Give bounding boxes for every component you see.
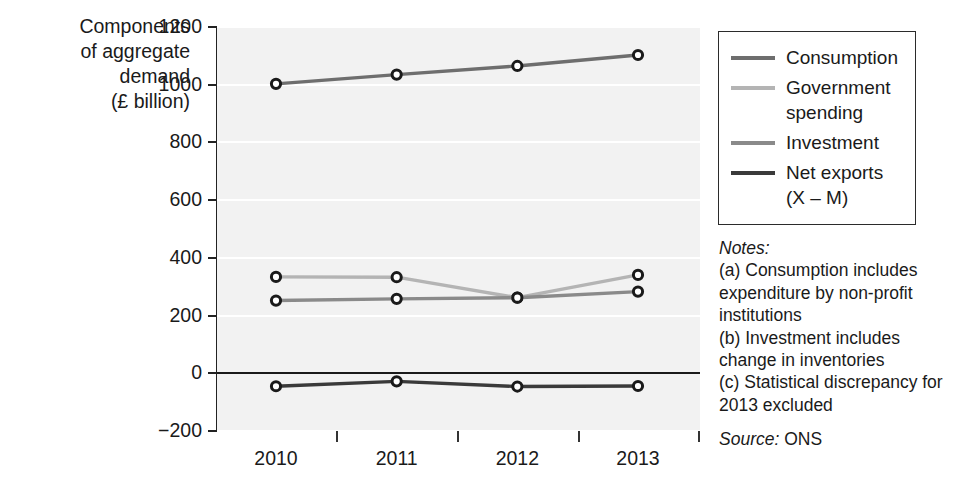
notes-block: Notes: (a) Consumption includes expendit… bbox=[719, 237, 947, 451]
y-axis-tick bbox=[208, 26, 217, 28]
y-axis-tick bbox=[208, 257, 217, 259]
legend-item-label: Net exports (X – M) bbox=[786, 160, 883, 210]
y-axis-tick bbox=[208, 372, 217, 374]
legend-item[interactable]: Net exports (X – M) bbox=[719, 160, 915, 210]
legend-color-swatch bbox=[731, 171, 775, 175]
y-axis-tick bbox=[208, 141, 217, 143]
x-axis-tick bbox=[578, 431, 580, 442]
y-axis-tick-label: 200 bbox=[169, 306, 202, 326]
series-net bbox=[271, 377, 642, 391]
data-point bbox=[513, 293, 522, 302]
data-point bbox=[633, 381, 642, 390]
legend-color-swatch bbox=[731, 141, 775, 145]
plot-area: 120010008006004002000−200 20102011201220… bbox=[217, 27, 700, 431]
x-axis-tick bbox=[698, 431, 700, 442]
x-axis-tick-label: 2011 bbox=[376, 449, 418, 469]
legend-item[interactable]: Consumption bbox=[719, 45, 915, 70]
series-layer bbox=[217, 27, 700, 431]
legend-item-label: Consumption bbox=[786, 45, 898, 70]
x-axis-tick-label: 2013 bbox=[616, 449, 659, 469]
series-investment bbox=[271, 287, 642, 305]
data-point bbox=[513, 382, 522, 391]
y-axis-tick-label: 1000 bbox=[159, 75, 202, 95]
y-axis-tick bbox=[208, 199, 217, 201]
series-line bbox=[276, 55, 638, 84]
data-point bbox=[271, 272, 280, 281]
y-axis-tick bbox=[208, 84, 217, 86]
data-point bbox=[271, 79, 280, 88]
data-point bbox=[633, 50, 642, 59]
legend-color-swatch bbox=[731, 56, 775, 60]
y-axis-tick bbox=[208, 430, 217, 432]
data-point bbox=[271, 382, 280, 391]
x-axis-tick bbox=[336, 431, 338, 442]
y-axis-tick-label: 600 bbox=[169, 190, 202, 210]
notes-heading: Notes: bbox=[719, 237, 947, 259]
legend: ConsumptionGovernment spendingInvestment… bbox=[718, 31, 916, 225]
source-value: ONS bbox=[784, 429, 822, 449]
notes-list: (a) Consumption includes expenditure by … bbox=[719, 259, 947, 416]
source-label: Source: bbox=[719, 429, 779, 449]
y-axis-tick-label: 400 bbox=[169, 248, 202, 268]
data-point bbox=[392, 70, 401, 79]
y-axis-tick bbox=[208, 315, 217, 317]
series-line bbox=[276, 381, 638, 386]
x-axis-tick-label: 2012 bbox=[496, 449, 539, 469]
y-axis-tick-label: 1200 bbox=[159, 17, 202, 37]
y-axis-tick-label: 800 bbox=[169, 133, 202, 153]
data-point bbox=[271, 296, 280, 305]
note-item: (b) Investment includes change in invent… bbox=[719, 327, 947, 372]
data-point bbox=[392, 273, 401, 282]
legend-item[interactable]: Government spending bbox=[719, 75, 915, 125]
data-point bbox=[633, 287, 642, 296]
legend-item[interactable]: Investment bbox=[719, 130, 915, 155]
source-line: Source: ONS bbox=[719, 428, 947, 450]
x-axis-tick-label: 2010 bbox=[254, 449, 297, 469]
legend-item-label: Investment bbox=[786, 130, 879, 155]
note-item: (a) Consumption includes expenditure by … bbox=[719, 259, 947, 326]
x-axis-tick bbox=[457, 431, 459, 442]
data-point bbox=[392, 377, 401, 386]
note-item: (c) Statistical discrepancy for 2013 exc… bbox=[719, 371, 947, 416]
data-point bbox=[513, 61, 522, 70]
legend-color-swatch bbox=[731, 86, 775, 90]
data-point bbox=[392, 294, 401, 303]
y-axis-tick-label: −200 bbox=[158, 421, 202, 441]
data-point bbox=[633, 270, 642, 279]
legend-item-label: Government spending bbox=[786, 75, 891, 125]
series-line bbox=[276, 292, 638, 301]
series-consumption bbox=[271, 50, 642, 88]
y-axis-tick-label: 0 bbox=[191, 364, 202, 384]
